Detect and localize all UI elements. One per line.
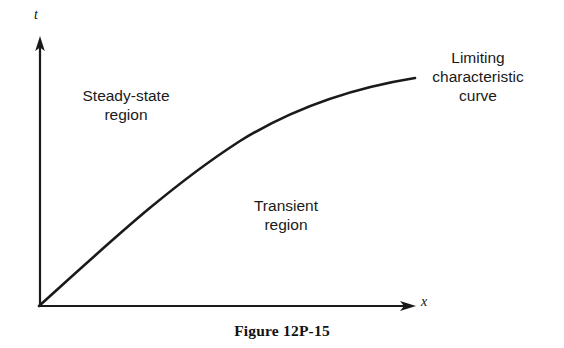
transient-region-label-line1: Transient	[215, 196, 357, 215]
x-axis-label: x	[421, 295, 427, 309]
limiting-curve-label-line2: characteristic	[411, 67, 545, 86]
figure-caption: Figure 12P-15	[0, 322, 564, 340]
figure-container: t x Steady-state region Transient region…	[0, 0, 564, 348]
steady-state-region-label-line2: region	[46, 105, 206, 124]
limiting-characteristic-curve-label: Limiting characteristic curve	[411, 48, 545, 105]
steady-state-region-label-line1: Steady-state	[46, 86, 206, 105]
limiting-curve-label-line1: Limiting	[411, 48, 545, 67]
limiting-curve-label-line3: curve	[411, 86, 545, 105]
transient-region-label-line2: region	[215, 215, 357, 234]
y-axis-label: t	[34, 8, 38, 22]
steady-state-region-label: Steady-state region	[46, 86, 206, 124]
transient-region-label: Transient region	[215, 196, 357, 234]
